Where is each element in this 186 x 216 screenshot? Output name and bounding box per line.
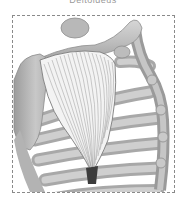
tendon xyxy=(86,166,98,184)
anatomy-illustration xyxy=(0,0,186,216)
